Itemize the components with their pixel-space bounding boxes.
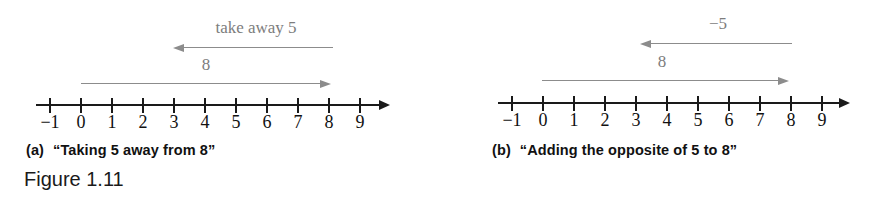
axis-tick [359, 98, 361, 113]
axis-tick-label: 3 [621, 110, 651, 130]
axis-tick-label: 8 [776, 110, 806, 130]
axis-tick [266, 98, 268, 113]
arrow-line-eight [81, 83, 321, 84]
axis-tick-label: 9 [807, 110, 837, 130]
axis-tick [511, 96, 513, 111]
axis-tick [821, 96, 823, 111]
axis-tick-label: 8 [314, 112, 344, 132]
axis-arrowhead-icon [379, 100, 390, 110]
arrow-line-eight [542, 80, 779, 81]
axis-tick [542, 96, 544, 111]
axis-tick [142, 98, 144, 113]
panel-caption-a: (a)“Taking 5 away from 8” [26, 142, 215, 158]
axis-tick-label: 2 [128, 112, 158, 132]
axis-tick-label: 2 [590, 110, 620, 130]
axis-tick [728, 96, 730, 111]
axis-tick [328, 98, 330, 113]
axis-tick [235, 98, 237, 113]
axis-tick [49, 98, 51, 113]
axis-tick [297, 98, 299, 113]
arrow-label-eight: 8 [582, 52, 742, 72]
figure-panel-b: −5 8 −1 0 1 2 [442, 0, 884, 202]
panel-tag-b: (b) [492, 142, 511, 158]
arrow-head-negative-five [640, 40, 651, 48]
axis-tick-label: 6 [714, 110, 744, 130]
arrow-head-take-away-5 [173, 44, 184, 52]
axis-tick-label: 4 [652, 110, 682, 130]
figure-1-11: take away 5 8 −1 0 1 [0, 0, 884, 202]
axis-tick [759, 96, 761, 111]
axis-tick-label: −1 [35, 112, 65, 132]
panel-caption-b: (b)“Adding the opposite of 5 to 8” [492, 142, 737, 158]
axis-tick-label: 6 [252, 112, 282, 132]
axis-tick-label: 1 [559, 110, 589, 130]
axis-tick [697, 96, 699, 111]
arrow-label-eight: 8 [126, 55, 286, 75]
axis-tick-label: 4 [190, 112, 220, 132]
axis-tick [635, 96, 637, 111]
arrow-label-negative-five: −5 [638, 14, 798, 34]
axis-tick [666, 96, 668, 111]
panel-caption-text-a: “Taking 5 away from 8” [53, 142, 215, 158]
axis-tick [111, 98, 113, 113]
axis-tick [790, 96, 792, 111]
number-line-a: take away 5 8 −1 0 1 [0, 0, 442, 140]
axis-tick [204, 98, 206, 113]
axis-tick-label: 7 [283, 112, 313, 132]
axis-tick-label: −1 [497, 110, 527, 130]
axis-tick [173, 98, 175, 113]
arrow-line-take-away-5 [179, 47, 333, 48]
arrow-head-eight [320, 80, 331, 88]
axis-tick-label: 0 [528, 110, 558, 130]
number-line-b: −5 8 −1 0 1 2 [442, 0, 884, 140]
panel-tag-a: (a) [26, 142, 44, 158]
panel-caption-text-b: “Adding the opposite of 5 to 8” [520, 142, 737, 158]
axis-tick [80, 98, 82, 113]
axis-tick-label: 1 [97, 112, 127, 132]
arrow-label-take-away-5: take away 5 [176, 18, 336, 38]
axis-tick [573, 96, 575, 111]
axis-tick [604, 96, 606, 111]
axis-tick-label: 5 [683, 110, 713, 130]
arrow-head-eight [778, 77, 789, 85]
axis-arrowhead-icon [839, 98, 850, 108]
axis-tick-label: 3 [159, 112, 189, 132]
arrow-line-negative-five [646, 43, 792, 44]
axis-tick-label: 7 [745, 110, 775, 130]
axis-tick-label: 5 [221, 112, 251, 132]
figure-number-label: Figure 1.11 [24, 168, 124, 191]
axis-tick-label: 9 [345, 112, 375, 132]
axis-tick-label: 0 [66, 112, 96, 132]
